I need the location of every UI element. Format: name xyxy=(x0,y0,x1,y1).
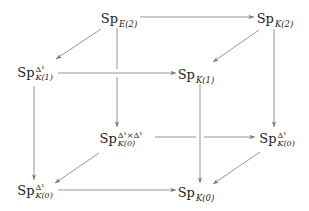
node-sp-k0-delta1-left: SpΔ¹K(0) xyxy=(16,183,54,200)
node-scripts: Δ¹K(0) xyxy=(277,132,294,149)
node-sp-k0: SpK(0) xyxy=(177,186,216,199)
arrow-k2-to-k1 xyxy=(213,30,259,62)
commutative-cube-diagram: SpE(2) SpK(2) SpΔ¹K(1) SpK(1) SpΔ¹×Δ¹K(0… xyxy=(0,0,309,211)
arrows-layer xyxy=(0,0,309,211)
node-sp-k1-delta1: SpΔ¹K(1) xyxy=(16,65,54,82)
node-scripts: Δ¹×Δ¹K(0) xyxy=(118,132,143,149)
arrow-k0d1d1-to-k0d1l xyxy=(55,153,99,183)
node-scripts: Δ¹K(0) xyxy=(35,184,52,201)
node-subscript: K(0) xyxy=(196,193,214,203)
node-subscript: K(1) xyxy=(35,74,52,82)
node-base: Sp xyxy=(259,131,276,146)
arrow-e2-to-k1d1 xyxy=(56,29,101,59)
node-base: Sp xyxy=(17,65,34,80)
node-subscript: E(2) xyxy=(119,19,137,29)
arrow-k0d1r-to-k0 xyxy=(213,152,260,184)
node-base: Sp xyxy=(257,11,274,26)
node-base: Sp xyxy=(17,183,34,198)
node-base: Sp xyxy=(178,67,195,82)
node-sp-k0-delta1xdelta1: SpΔ¹×Δ¹K(0) xyxy=(99,131,144,148)
node-sp-k0-delta1-right: SpΔ¹K(0) xyxy=(258,131,296,148)
node-sp-e2: SpE(2) xyxy=(100,12,138,25)
node-subscript: K(0) xyxy=(118,140,143,148)
node-base: Sp xyxy=(101,11,118,26)
node-subscript: K(1) xyxy=(196,75,214,85)
node-subscript: K(0) xyxy=(277,140,294,148)
node-base: Sp xyxy=(178,185,195,200)
node-subscript: K(0) xyxy=(35,192,52,200)
node-base: Sp xyxy=(100,131,117,146)
node-sp-k1: SpK(1) xyxy=(177,68,216,81)
node-scripts: Δ¹K(1) xyxy=(35,66,52,83)
node-subscript: K(2) xyxy=(275,19,293,29)
node-sp-k2: SpK(2) xyxy=(256,12,295,25)
